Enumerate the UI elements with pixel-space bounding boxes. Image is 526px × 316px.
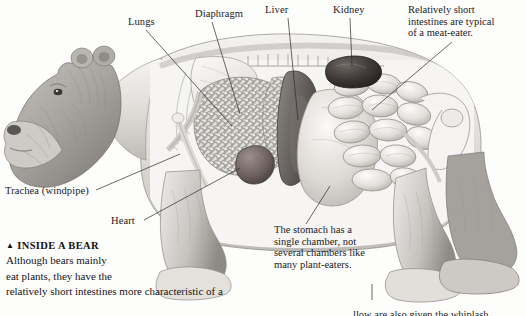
label-diaphragm: Diaphragm	[195, 8, 243, 20]
bear-head	[4, 46, 121, 187]
label-liver: Liver	[265, 4, 288, 16]
caption-body: Although bears mainly eat plants, they h…	[6, 253, 316, 300]
triangle-up-icon: ▲	[6, 241, 14, 250]
note-bottom-cut: llow are also given the whiplash	[353, 309, 489, 316]
caption-line2: eat plants, they have the	[6, 269, 316, 285]
caption-line1: Although bears mainly	[6, 253, 316, 269]
caption-title: INSIDE A BEAR	[17, 240, 99, 251]
note-intestines-line2: intestines are typical	[408, 16, 494, 28]
illustration-stage: Lungs Diaphragm Liver Kidney Trachea (wi…	[0, 0, 526, 316]
label-lungs: Lungs	[128, 16, 155, 28]
label-kidney: Kidney	[333, 4, 365, 16]
label-heart: Heart	[111, 215, 135, 227]
caption-line3: relatively short intestines more charact…	[6, 284, 316, 300]
heart-organ	[236, 146, 275, 184]
kidney-organ	[326, 56, 382, 88]
note-intestines-line3: of a meat-eater.	[408, 27, 494, 39]
note-intestines-line1: Relatively short	[408, 4, 494, 16]
caption-title-row: ▲INSIDE A BEAR	[6, 240, 316, 251]
note-stomach-line1: The stomach has a	[274, 224, 365, 236]
figure-caption: ▲INSIDE A BEAR Although bears mainly eat…	[6, 240, 316, 300]
note-intestines: Relatively short intestines are typical …	[408, 4, 494, 39]
label-trachea: Trachea (windpipe)	[5, 185, 89, 197]
